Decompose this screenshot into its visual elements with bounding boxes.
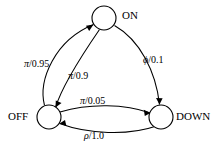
- edge-label-on-to-down: ϕ/0.1: [143, 55, 163, 65]
- node-off[interactable]: [37, 105, 61, 129]
- arrowhead-on-to-off: [56, 101, 62, 108]
- edge-label-off-to-down: π/0.05: [80, 96, 105, 106]
- node-on[interactable]: [92, 6, 116, 30]
- arrowhead-on-to-down: [156, 98, 163, 105]
- node-label-off: OFF: [8, 111, 28, 122]
- edge-on-to-down: [115, 26, 163, 105]
- edge-path-off-to-on: [43, 25, 93, 106]
- edge-label-on-to-off: π/0.9: [68, 71, 88, 81]
- edge-path-down-to-off: [60, 124, 157, 133]
- node-label-down: DOWN: [176, 111, 210, 122]
- state-diagram-canvas: ON OFF DOWN π/0.95 π/0.9 ϕ/0.1 π/0.05 ρ/…: [0, 0, 216, 150]
- edge-label-down-to-off: ρ/1.0: [84, 131, 104, 141]
- edge-path-on-to-down: [115, 26, 160, 105]
- node-down[interactable]: [149, 105, 173, 129]
- edge-path-off-to-down: [60, 106, 151, 113]
- edge-label-off-to-on: π/0.95: [24, 59, 49, 69]
- diagram-svg: [0, 0, 216, 150]
- edge-off-to-on: [43, 25, 93, 106]
- node-label-on: ON: [122, 10, 138, 21]
- edge-off-to-down: [60, 106, 151, 116]
- edge-down-to-off: [60, 120, 157, 133]
